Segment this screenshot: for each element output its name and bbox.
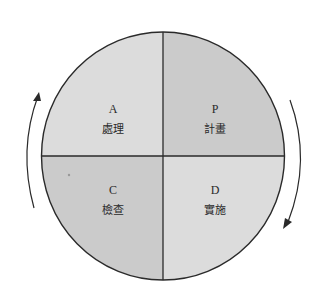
quadrant-d-fill — [163, 156, 288, 284]
pdca-diagram: A 處理 P 計畫 C 檢查 D 實施 — [0, 0, 322, 298]
arrow-up-icon — [27, 92, 41, 208]
quadrant-a-label: 處理 — [102, 122, 124, 136]
quadrant-c-letter: C — [109, 183, 117, 197]
quadrant-p-label: 計畫 — [204, 122, 226, 136]
arrow-down-icon — [283, 100, 301, 229]
quadrant-p-letter: P — [212, 102, 219, 116]
quadrant-c-label: 檢查 — [102, 203, 124, 217]
quadrant-a-letter: A — [109, 102, 118, 116]
quadrant-d-letter: D — [211, 183, 220, 197]
quadrant-d-label: 實施 — [204, 203, 226, 217]
speck — [68, 174, 70, 176]
